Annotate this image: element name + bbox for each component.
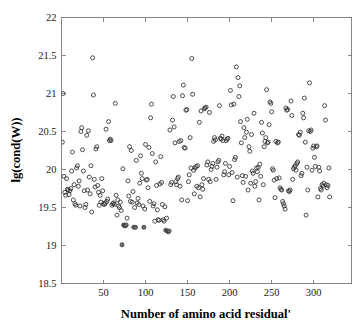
y-tick-label-20: 20 [46,164,57,175]
data-point [259,174,263,178]
data-point [244,130,248,134]
data-point [249,133,253,137]
data-point [236,76,240,80]
x-axis-title: Number of amino acid residual' [121,307,291,321]
data-point [180,198,184,202]
data-point [160,202,164,206]
data-point [257,198,261,202]
data-point [114,193,118,197]
data-point [113,101,117,105]
x-tick-label-250: 250 [264,287,280,298]
data-point [254,180,258,184]
data-point [313,155,317,159]
data-point [239,120,243,124]
data-point [323,104,327,108]
x-tick-label-200: 200 [222,287,238,298]
data-point [165,216,169,220]
data-point [267,123,271,127]
data-point [255,170,259,174]
data-point [186,180,190,184]
data-point [147,145,151,149]
data-point [310,168,314,172]
data-point [197,120,201,124]
data-point [144,142,148,146]
y-tick-label-19.5: 19.5 [38,202,56,213]
data-point [262,145,266,149]
data-point [72,183,76,187]
data-point [178,184,182,188]
y-tick-label-21: 21 [46,88,57,99]
data-point [92,177,96,181]
data-point [124,223,128,227]
data-point [270,110,274,114]
data-point [79,130,83,134]
x-tick-label-100: 100 [138,287,154,298]
data-point [323,118,327,122]
data-point [154,160,158,164]
axes-frame [62,18,352,284]
data-point [131,190,135,194]
data-point [189,166,193,170]
data-point [155,208,159,212]
data-point [140,177,144,181]
data-point [232,102,236,106]
data-point [65,177,69,181]
data-point [150,152,154,156]
data-point [198,195,202,199]
data-point [134,158,138,162]
data-point [246,188,250,192]
y-axis-title: lg(cond(W)) [9,117,23,182]
data-point [90,210,94,214]
scatter-plot-figure: 18.51919.52020.52121.522 501001502002503… [0,0,363,330]
y-tick-label-22: 22 [46,12,57,23]
data-point [304,213,308,217]
data-point [138,181,142,185]
data-point [200,183,204,187]
data-point [265,88,269,92]
data-point [223,161,227,165]
data-point [290,114,294,118]
data-point [120,243,124,247]
data-point [172,125,176,129]
data-point [253,184,257,188]
data-point [239,141,243,145]
data-point [207,111,211,115]
data-point [190,57,194,61]
data-point [81,148,85,152]
data-point [133,206,137,210]
data-point [242,126,246,130]
data-point [89,164,93,168]
data-point [273,196,277,200]
data-point [139,171,143,175]
x-tick-label-150: 150 [180,287,196,298]
data-point [243,136,247,140]
data-point [307,81,311,85]
data-point [235,175,239,179]
data-point [237,95,241,99]
data-point [245,117,249,121]
y-axis-ticks [62,18,352,284]
data-point [115,213,119,217]
data-point [87,175,91,179]
data-point [302,116,306,120]
y-tick-label-21.5: 21.5 [38,50,56,61]
data-point [85,133,89,137]
x-axis-ticks [104,18,314,284]
data-point [229,103,233,107]
data-point [78,204,82,208]
data-point [188,136,192,140]
data-point [234,65,238,69]
data-point [230,171,234,175]
data-point [167,229,171,233]
data-point [318,169,322,173]
data-point [170,118,174,122]
data-point [80,126,84,130]
data-point [81,169,85,173]
data-point [88,192,92,196]
data-point [327,166,331,170]
data-point [277,176,281,180]
y-tick-label-20.5: 20.5 [38,126,56,137]
data-point [187,173,191,177]
data-point [107,120,111,124]
data-point [201,187,205,191]
